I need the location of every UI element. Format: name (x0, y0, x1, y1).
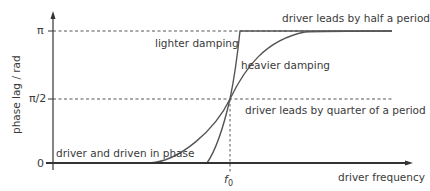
tick-label-zero: 0 (37, 158, 44, 169)
x-axis-label: driver frequency (338, 172, 425, 183)
lighter-damping-curve (53, 31, 392, 163)
y-axis-arrow-icon (51, 11, 56, 19)
annotation-half-period: driver leads by half a period (282, 13, 430, 24)
tick-label-half-pi: π/2 (29, 93, 46, 104)
x-axis-arrow-icon (405, 161, 413, 166)
annotation-heavier-damping: heavier damping (241, 60, 330, 71)
f0-subscript: 0 (228, 179, 233, 188)
y-axis-label: phase lag / rad (11, 55, 22, 134)
f0-marker-label: f0 (224, 174, 233, 188)
annotation-in-phase: driver and driven in phase (56, 148, 194, 159)
tick-label-pi: π (37, 25, 44, 36)
heavier-damping-curve (53, 31, 392, 163)
annotation-quarter-period: driver leads by quarter of a period (245, 105, 426, 116)
annotation-lighter-damping: lighter damping (155, 38, 239, 49)
